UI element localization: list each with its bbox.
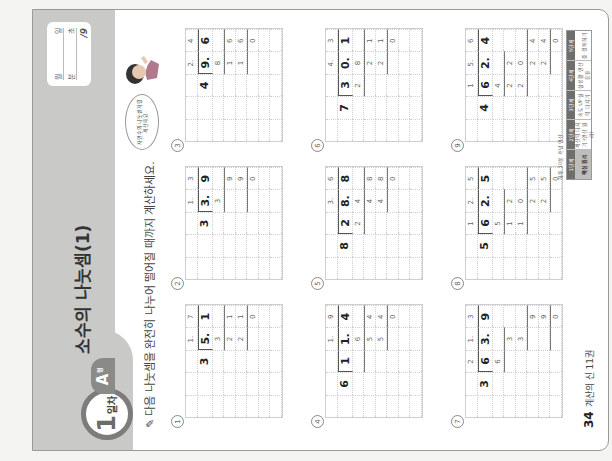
grid-cell bbox=[387, 234, 399, 256]
grid-cell bbox=[478, 257, 493, 279]
grid-cell: 4 bbox=[376, 189, 388, 211]
grid-cell: 5 bbox=[478, 167, 493, 189]
grid-cell: 9 bbox=[326, 305, 338, 327]
grid-cell bbox=[466, 234, 478, 256]
grid-cell bbox=[213, 119, 225, 141]
grid-cell: 1 bbox=[224, 51, 236, 73]
grid-cell bbox=[539, 234, 551, 256]
grid-cell bbox=[527, 234, 539, 256]
grid-cell bbox=[270, 51, 282, 73]
grid-cell bbox=[410, 234, 422, 256]
grid-cell bbox=[326, 234, 338, 256]
grid-cell: 9 bbox=[478, 305, 493, 327]
grid-cell bbox=[236, 372, 248, 394]
grid-cell bbox=[186, 74, 198, 96]
grid-cell bbox=[493, 119, 505, 141]
grid-cell: 2 bbox=[376, 51, 388, 73]
grid-cell bbox=[387, 119, 399, 141]
grid-cell bbox=[270, 189, 282, 211]
grid-cell bbox=[364, 350, 376, 372]
grid-cell bbox=[224, 74, 236, 96]
grid-cell: 8 bbox=[338, 167, 353, 189]
long-division-grid: 1.735.1321210 bbox=[185, 304, 283, 418]
grid-cell: 3 bbox=[213, 327, 225, 349]
grid-cell bbox=[364, 74, 376, 96]
grid-cell: 3 bbox=[478, 372, 493, 394]
grid-cell: 3. bbox=[478, 327, 493, 349]
problem-number: 6 bbox=[311, 139, 324, 152]
grid-cell bbox=[399, 372, 411, 394]
grid-cell: 2 bbox=[504, 51, 516, 73]
grid-cell bbox=[387, 350, 399, 372]
grid-cell bbox=[259, 74, 271, 96]
grid-cell bbox=[539, 119, 551, 141]
grid-cell bbox=[527, 96, 539, 118]
grid-cell bbox=[466, 96, 478, 118]
grid-cell bbox=[550, 234, 562, 256]
grid-cell bbox=[399, 257, 411, 279]
grid-cell bbox=[493, 327, 505, 349]
day-badge: 1 일차 bbox=[81, 388, 133, 440]
grid-cell bbox=[516, 29, 528, 51]
grid-cell bbox=[353, 372, 365, 394]
grid-cell: 4 bbox=[198, 74, 213, 96]
grid-cell bbox=[236, 189, 248, 211]
grid-cell bbox=[198, 234, 213, 256]
grid-cell: 0. bbox=[338, 51, 353, 73]
long-division-grid: 15.6462.44222024240 bbox=[465, 28, 563, 142]
brand-step-1: 1단계핵심 원리 bbox=[567, 149, 591, 179]
problem-number: 9 bbox=[451, 139, 464, 152]
grid-cell bbox=[338, 119, 353, 141]
grid-cell bbox=[198, 372, 213, 394]
grid-cell bbox=[236, 119, 248, 141]
grid-cell: 2 bbox=[353, 212, 365, 234]
problem-number: 2 bbox=[171, 277, 184, 290]
grid-cell bbox=[186, 96, 198, 118]
grid-cell bbox=[387, 212, 399, 234]
grid-cell bbox=[247, 189, 259, 211]
grid-cell: 8. bbox=[338, 189, 353, 211]
brand-step-head: 5단계 bbox=[567, 31, 575, 60]
grid-cell bbox=[270, 96, 282, 118]
grid-cell bbox=[550, 189, 562, 211]
grid-cell: 3 bbox=[516, 327, 528, 349]
grid-cell bbox=[516, 167, 528, 189]
grid-cell: 4 bbox=[364, 189, 376, 211]
grid-cell bbox=[213, 372, 225, 394]
grid-cell: 1 bbox=[466, 212, 478, 234]
grid-cell bbox=[259, 372, 271, 394]
grid-cell bbox=[539, 74, 551, 96]
stage: 1 일차 A형 소수의 나눗셈(1) 월 일 분 초 /9 자연수의 나눗셈처럼… bbox=[0, 0, 612, 461]
grid-cell: 6 bbox=[466, 29, 478, 51]
grid-cell bbox=[410, 51, 422, 73]
long-division-grid: 1.9611.4654540 bbox=[325, 304, 423, 418]
grid-cell bbox=[353, 29, 365, 51]
grid-cell bbox=[198, 395, 213, 417]
grid-cell bbox=[504, 305, 516, 327]
grid-cell bbox=[493, 96, 505, 118]
brand-step-3: 3단계속도 UP 실력 다지기 bbox=[567, 90, 591, 120]
grid-cell bbox=[516, 119, 528, 141]
grid-cell bbox=[353, 96, 365, 118]
grid-cell: 4 bbox=[376, 305, 388, 327]
brand-step-head: 4단계 bbox=[567, 61, 575, 90]
brand-block: 하루 10분 개념 연산 1단계핵심 원리2단계계산력 다지기 (연산 원리)3… bbox=[556, 30, 592, 180]
grid-cell bbox=[410, 327, 422, 349]
grid-cell: 3 bbox=[186, 167, 198, 189]
grid-cell bbox=[247, 212, 259, 234]
grid-cell bbox=[516, 395, 528, 417]
grid-cell: 2 bbox=[527, 189, 539, 211]
grid-cell bbox=[236, 395, 248, 417]
grid-cell bbox=[410, 29, 422, 51]
grid-cell bbox=[516, 234, 528, 256]
grid-cell bbox=[247, 395, 259, 417]
grid-cell bbox=[213, 96, 225, 118]
grid-cell: 2 bbox=[539, 51, 551, 73]
grid-cell bbox=[224, 119, 236, 141]
grid-cell: 5 bbox=[493, 212, 505, 234]
grid-cell bbox=[399, 305, 411, 327]
grid-cell: 5 bbox=[539, 167, 551, 189]
brand-step-body: 실생활 연산 응용 bbox=[575, 61, 591, 90]
grid-cell bbox=[376, 234, 388, 256]
grid-cell bbox=[527, 212, 539, 234]
